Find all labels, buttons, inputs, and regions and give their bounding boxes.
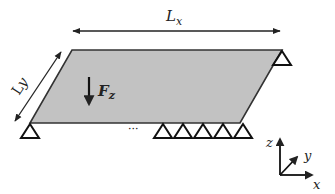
support-ellipsis: ··· — [128, 123, 139, 136]
lx-label: Lx — [165, 7, 183, 28]
coordinate-axes: z y x — [265, 135, 321, 192]
support-triangle-icon — [194, 124, 212, 138]
x-axis-label: x — [313, 177, 321, 192]
support-triangle-icon — [234, 124, 252, 138]
plate-diagram: Lx Ly Fz ··· z y x — [0, 0, 335, 194]
support-triangle-icon — [174, 124, 192, 138]
support-triangle-icon — [21, 124, 39, 138]
y-axis-icon — [280, 157, 297, 175]
lx-dimension: Lx — [73, 7, 280, 31]
y-axis-label: y — [303, 148, 312, 163]
z-axis-label: z — [265, 135, 273, 150]
ly-label: Ly — [8, 74, 31, 98]
support-triangle-icon — [154, 124, 172, 138]
support-triangle-icon — [214, 124, 232, 138]
plate — [30, 50, 282, 123]
